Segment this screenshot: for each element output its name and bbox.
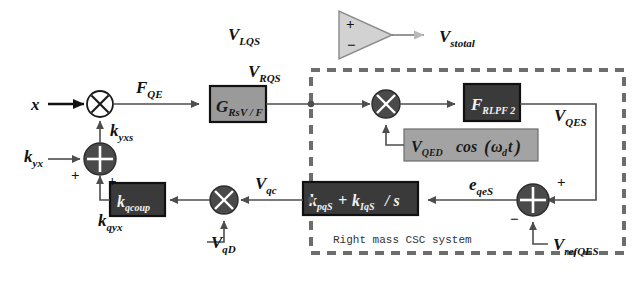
sum1-plus-bottom: +	[108, 173, 117, 189]
svg-text:+: +	[338, 192, 347, 209]
multiplier-demod	[372, 90, 400, 118]
label-v-qes: VQES	[554, 106, 587, 128]
block-diagram-canvas: Right mass CSC system + − Vstotal VLQS V…	[0, 0, 642, 286]
multiplier-qd	[210, 186, 238, 214]
block-carrier-source: VQED cos ( ω d t )	[404, 129, 538, 161]
label-v-rqs: VRQS	[248, 62, 281, 84]
svg-text:cos: cos	[456, 138, 477, 155]
block-pi-controller: kpqS + kIqS / s	[303, 182, 418, 215]
amplifier-minus-sign: −	[347, 37, 356, 53]
svg-text:t: t	[508, 138, 513, 155]
summing-junction-error	[517, 184, 549, 216]
sum2-minus-sign: −	[510, 211, 519, 227]
label-input-x: x	[30, 95, 40, 114]
amplifier-plus-sign: +	[346, 16, 355, 32]
label-v-refqes: VrefQES	[553, 235, 599, 257]
label-e-qes: eqeS	[469, 175, 493, 197]
sum2-plus-sign: +	[557, 174, 566, 190]
label-f-qe: FQE	[135, 78, 163, 100]
wire-vrefqes	[533, 222, 548, 244]
label-k-yx: kyx	[24, 147, 43, 169]
junction-dot-vrqs	[308, 101, 314, 107]
summing-amplifier: + −	[339, 11, 424, 59]
block-gain-rsvf: GRsV / F	[210, 86, 266, 122]
block-cross-coupling: kqcoup	[110, 183, 165, 216]
label-v-lqs: VLQS	[228, 25, 260, 47]
sum1-plus-left: +	[71, 167, 80, 183]
label-v-qc: Vqc	[255, 174, 277, 196]
subsystem-caption: Right mass CSC system	[333, 234, 472, 246]
block-filter-rlpf2: FRLPF 2	[464, 84, 520, 121]
svg-text:/ s: / s	[384, 192, 400, 209]
svg-text:): )	[513, 137, 521, 158]
svg-text:ω: ω	[491, 138, 503, 155]
wire-carrier-to-mixer	[386, 125, 404, 145]
summing-junction-yx	[84, 143, 116, 175]
label-v-stotal: Vstotal	[439, 27, 476, 49]
multiplier-yxs	[87, 91, 113, 117]
label-k-yxs: kyxs	[110, 121, 133, 143]
junction-dot-pi-out	[308, 197, 314, 203]
